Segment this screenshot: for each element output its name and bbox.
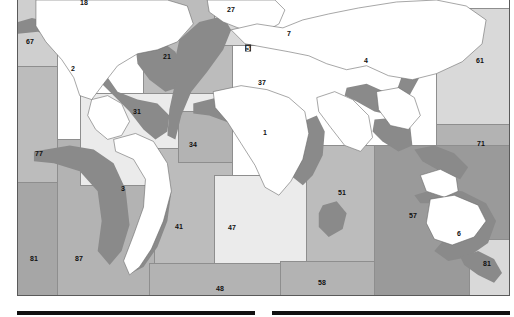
region-label-58: 58: [318, 279, 326, 286]
region-label-4: 4: [364, 57, 368, 64]
region-label-71: 71: [477, 140, 485, 147]
region-label-87: 87: [75, 255, 83, 262]
region-label-7: 7: [287, 30, 291, 37]
region-label-41: 41: [175, 223, 183, 230]
region-label-57: 57: [409, 212, 417, 219]
region-label-81-west: 81: [30, 255, 38, 262]
region-label-18: 18: [80, 0, 88, 6]
region-label-3: 3: [121, 185, 125, 192]
left-figure-rule: [17, 311, 255, 315]
region-label-31: 31: [133, 108, 141, 115]
world-map-figure: 18 67 2 21 27 5 7 4 61 37 31 1 34 71 77 …: [17, 0, 510, 296]
region-label-34: 34: [189, 141, 197, 148]
region-label-61: 61: [476, 57, 484, 64]
region-label-27: 27: [227, 6, 235, 13]
region-label-67: 67: [26, 38, 34, 45]
landmass-layer: [18, 0, 509, 295]
region-label-37: 37: [258, 79, 266, 86]
region-label-47: 47: [228, 224, 236, 231]
region-label-77: 77: [35, 150, 43, 157]
region-label-2: 2: [71, 65, 75, 72]
region-label-5: 5: [245, 45, 251, 52]
region-label-1: 1: [263, 129, 267, 136]
region-label-21: 21: [163, 53, 171, 60]
region-label-81-east: 81: [483, 260, 491, 267]
region-label-48: 48: [216, 285, 224, 292]
region-label-6: 6: [457, 230, 461, 237]
right-figure-rule: [272, 311, 510, 315]
region-label-51: 51: [338, 189, 346, 196]
map-page: 18 67 2 21 27 5 7 4 61 37 31 1 34 71 77 …: [0, 0, 514, 317]
map-canvas: 18 67 2 21 27 5 7 4 61 37 31 1 34 71 77 …: [18, 0, 509, 295]
